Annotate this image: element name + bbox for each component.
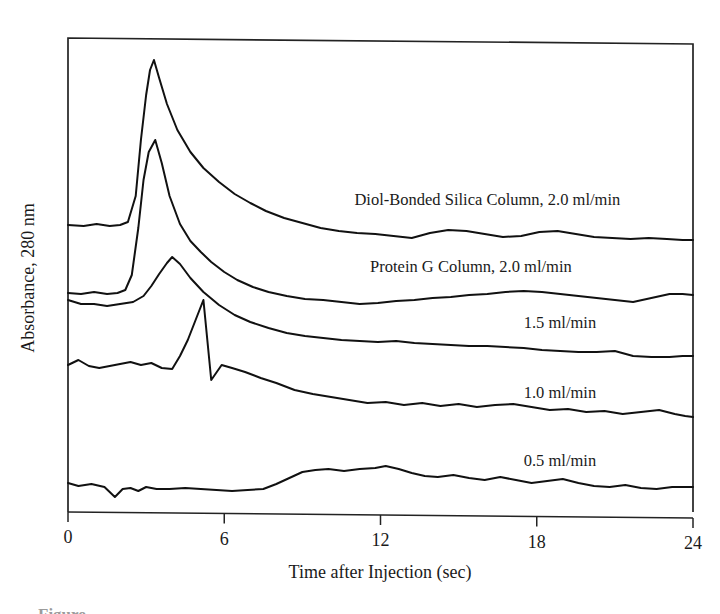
x-tick-label-24: 24 [684, 533, 702, 553]
series-label-4: 0.5 ml/min [524, 451, 596, 470]
y-axis-title: Absorbance, 280 nm [18, 203, 38, 352]
trace-1 [68, 140, 693, 304]
x-axis-title: Time after Injection (sec) [289, 562, 472, 583]
x-tick-label-18: 18 [528, 532, 546, 552]
trace-0 [68, 60, 693, 240]
series-label-2: 1.5 ml/min [524, 313, 596, 332]
series-label-group: Diol-Bonded Silica Column, 2.0 ml/minPro… [354, 190, 620, 470]
trace-group [68, 60, 693, 497]
x-axis-tick-labels: 06121824 [64, 527, 703, 553]
figure-caption-fragment: Figure [38, 606, 86, 614]
chromatogram-chart: 06121824 Diol-Bonded Silica Column, 2.0 … [0, 0, 720, 614]
series-label-0: Diol-Bonded Silica Column, 2.0 ml/min [354, 190, 620, 209]
series-label-3: 1.0 ml/min [524, 383, 596, 402]
trace-3 [68, 300, 693, 417]
trace-4 [68, 466, 693, 497]
figure-root: 06121824 Diol-Bonded Silica Column, 2.0 … [0, 0, 720, 614]
series-label-1: Protein G Column, 2.0 ml/min [370, 257, 572, 276]
x-tick-label-6: 6 [220, 529, 229, 549]
x-tick-label-12: 12 [372, 530, 390, 550]
x-tick-label-0: 0 [64, 527, 73, 547]
